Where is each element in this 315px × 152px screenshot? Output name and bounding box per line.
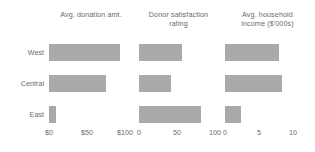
row-label-central: Central — [2, 79, 44, 88]
panel-title-satisfaction-line2: rating — [131, 19, 226, 28]
tick-satisfaction-50: 50 — [163, 128, 191, 137]
panel-title-satisfaction: Donor satisfaction rating — [131, 10, 226, 28]
row-label-east: East — [2, 110, 44, 119]
panel-title-satisfaction-line1: Donor satisfaction — [131, 10, 226, 19]
panel-title-income: Avg. household income ($'000s) — [220, 10, 315, 28]
panel-title-income-line2: income ($'000s) — [220, 19, 315, 28]
bar-donation-west — [49, 44, 120, 61]
tick-income-5: 5 — [245, 128, 273, 137]
row-label-west: West — [2, 48, 44, 57]
panel-title-income-line1: Avg. household — [220, 10, 315, 19]
bar-income-central — [225, 75, 282, 92]
tick-income-10: 10 — [279, 128, 307, 137]
tick-satisfaction-0: 0 — [125, 128, 153, 137]
bar-satisfaction-central — [139, 75, 171, 92]
bar-satisfaction-east — [139, 106, 201, 123]
tick-donation-0: $0 — [34, 128, 64, 137]
bar-income-east — [225, 106, 241, 123]
panel-title-donation: Avg. donation amt. — [36, 10, 146, 19]
bar-donation-central — [49, 75, 106, 92]
tick-donation-50: $50 — [72, 128, 102, 137]
bar-income-west — [225, 44, 279, 61]
tick-income-0: 0 — [211, 128, 239, 137]
panel-title-donation-line1: Avg. donation amt. — [36, 10, 146, 19]
bar-donation-east — [49, 106, 56, 123]
bar-satisfaction-west — [139, 44, 182, 61]
grouped-bar-chart: Avg. donation amt. Donor satisfaction ra… — [0, 0, 315, 152]
